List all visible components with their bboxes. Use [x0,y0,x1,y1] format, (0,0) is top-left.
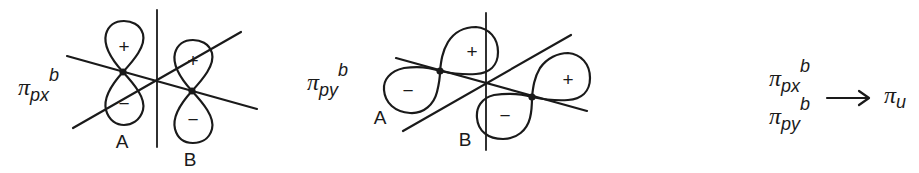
nucleus-a [436,67,443,74]
equation-output: πu [884,82,906,112]
internuclear-axis-line [396,58,587,111]
panel-pi-py-b: πpyb + − A + − B [307,13,590,150]
lobe-sign: + [187,50,198,71]
lobe-sign: − [402,80,413,101]
lobe-sign: + [562,69,573,90]
lobe-sign: − [499,105,510,126]
nucleus-a [119,68,126,75]
panel2-label: πpyb [307,60,348,100]
nucleus-b [528,93,535,100]
orbital-diagram: πpxb + − A + − B πpyb + − [0,0,919,173]
atom-label-a: A [374,107,387,128]
internuclear-axis-line [67,56,257,109]
equation-input-px: πpxb [769,56,810,96]
atom-label-b: B [459,129,472,150]
lobe-b-right [532,53,590,100]
nucleus-b [188,87,195,94]
lobe-sign: − [187,109,198,130]
tilted-axis-line [403,35,571,131]
atom-label-a: A [116,131,129,152]
lobe-sign: + [118,36,129,57]
right-arrow-icon [827,91,869,105]
lobe-sign: + [466,41,477,62]
panel-pi-px-b: πpxb + − A + − B [18,10,257,170]
lobe-sign: − [118,93,129,114]
atom-label-b: B [184,149,197,170]
panel1-label: πpxb [18,65,59,105]
combination-equation: πpxb πpyb πu [769,56,906,134]
equation-input-py: πpyb [769,94,810,134]
